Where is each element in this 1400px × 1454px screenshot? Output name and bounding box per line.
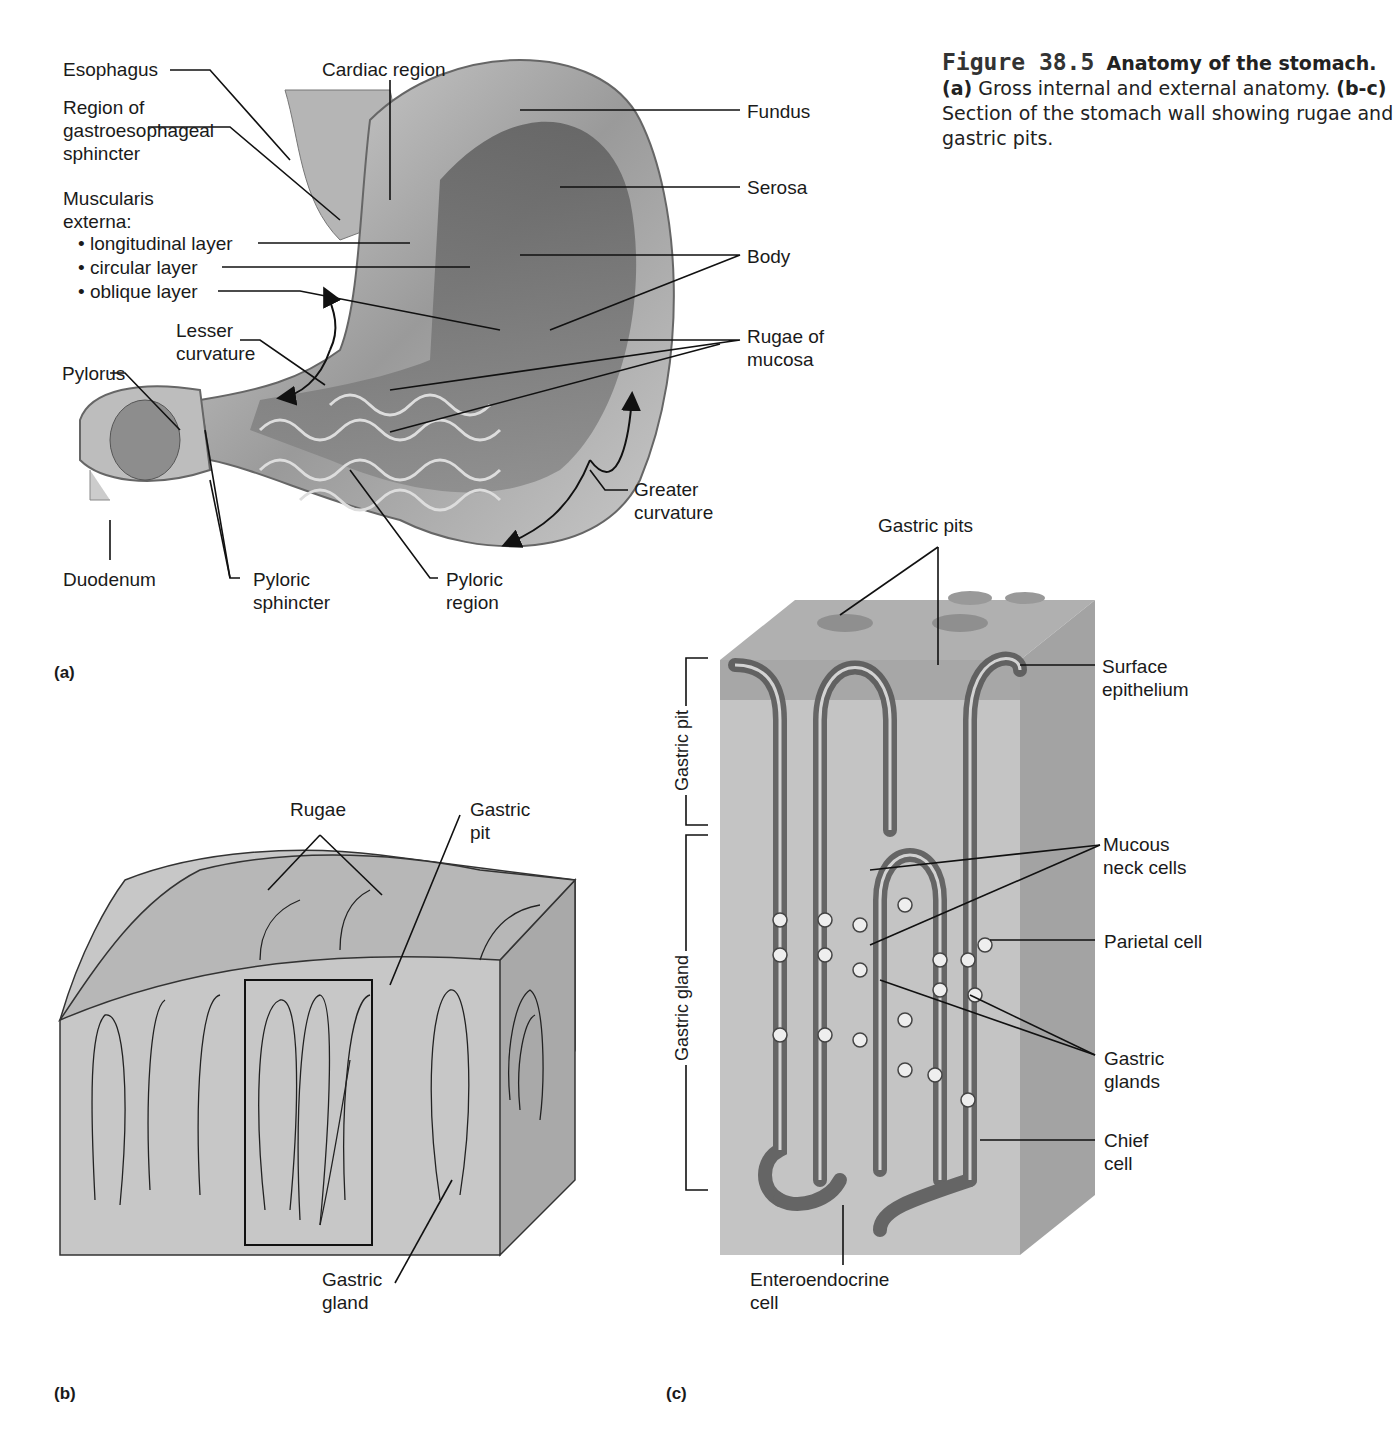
label-circular-layer: • circular layer xyxy=(78,256,198,279)
panel-tag-b: (b) xyxy=(54,1384,76,1404)
label-enteroendocrine-cell: Enteroendocrine cell xyxy=(750,1268,889,1314)
label-chief-cell: Chief cell xyxy=(1104,1129,1148,1175)
label-gastroesophageal-sphincter: Region of gastroesophageal sphincter xyxy=(63,96,214,165)
label-oblique-layer: • oblique layer xyxy=(78,280,198,303)
label-gastric-pit: Gastric pit xyxy=(470,798,530,844)
label-greater-curvature: Greater curvature xyxy=(634,478,713,524)
panel-tag-a: (a) xyxy=(54,663,75,683)
figure-artwork xyxy=(0,0,1400,1454)
label-duodenum: Duodenum xyxy=(63,568,156,591)
label-parietal-cell: Parietal cell xyxy=(1104,930,1202,953)
label-longitudinal-layer: • longitudinal layer xyxy=(78,232,233,255)
panel-tag-c: (c) xyxy=(666,1384,687,1404)
bracket-label-gastric-pit: Gastric pit xyxy=(672,706,693,795)
label-pylorus: Pylorus xyxy=(62,362,125,385)
label-pyloric-sphincter: Pyloric sphincter xyxy=(253,568,330,614)
label-lesser-curvature: Lesser curvature xyxy=(176,319,255,365)
label-mucous-neck-cells: Mucous neck cells xyxy=(1103,833,1186,879)
label-body: Body xyxy=(747,245,790,268)
label-rugae: Rugae xyxy=(290,798,346,821)
label-muscularis-externa: Muscularis externa: xyxy=(63,187,154,233)
rugae-block xyxy=(60,850,575,1255)
bracket-label-gastric-gland: Gastric gland xyxy=(672,951,693,1065)
label-gastric-pits: Gastric pits xyxy=(878,514,973,537)
label-rugae-of-mucosa: Rugae of mucosa xyxy=(747,325,824,371)
label-esophagus: Esophagus xyxy=(63,58,158,81)
label-gastric-glands: Gastric glands xyxy=(1104,1047,1164,1093)
label-gastric-gland: Gastric gland xyxy=(322,1268,382,1314)
gastric-gland-block xyxy=(720,591,1095,1255)
label-pyloric-region: Pyloric region xyxy=(446,568,503,614)
label-serosa: Serosa xyxy=(747,176,807,199)
label-surface-epithelium: Surface epithelium xyxy=(1102,655,1189,701)
label-cardiac-region: Cardiac region xyxy=(322,58,446,81)
label-fundus: Fundus xyxy=(747,100,810,123)
